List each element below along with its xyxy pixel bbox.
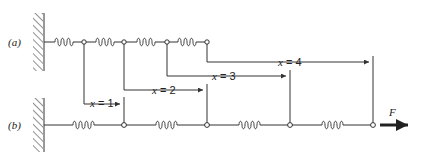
spring-icon <box>137 38 155 46</box>
node-icon <box>205 123 210 128</box>
dimension-x3: x = 3 <box>167 44 290 123</box>
node-icon <box>122 123 127 128</box>
row-a-chain <box>44 38 209 46</box>
svg-text:x = 3: x = 3 <box>211 70 236 82</box>
wall-b-icon <box>33 98 44 152</box>
spring-icon <box>96 38 114 46</box>
spring-icon <box>178 38 196 46</box>
spring-icon <box>239 121 260 129</box>
spring-diagram: (a) x = 1 <box>0 0 422 165</box>
svg-text:x = 4: x = 4 <box>277 56 302 68</box>
row-a-label: (a) <box>8 36 21 49</box>
spring-icon <box>55 38 73 46</box>
spring-icon <box>73 121 94 129</box>
node-icon <box>288 123 293 128</box>
node-icon <box>205 40 209 44</box>
spring-icon <box>156 121 177 129</box>
dimension-x1: x = 1 <box>84 44 124 123</box>
spring-icon <box>322 121 343 129</box>
node-icon <box>371 123 376 128</box>
row-b: (b) F <box>8 98 408 152</box>
row-b-chain <box>44 121 375 129</box>
force-label: F <box>388 106 396 118</box>
svg-text:x = 2: x = 2 <box>151 84 176 96</box>
node-icon <box>82 40 86 44</box>
dimension-x2: x = 2 <box>124 44 207 123</box>
svg-text:x = 1: x = 1 <box>89 97 114 109</box>
row-a: (a) <box>8 13 209 71</box>
node-icon <box>122 40 126 44</box>
row-b-label: (b) <box>8 119 21 132</box>
force-arrow-icon: F <box>380 106 408 125</box>
node-icon <box>165 40 169 44</box>
wall-a-icon <box>33 13 44 71</box>
